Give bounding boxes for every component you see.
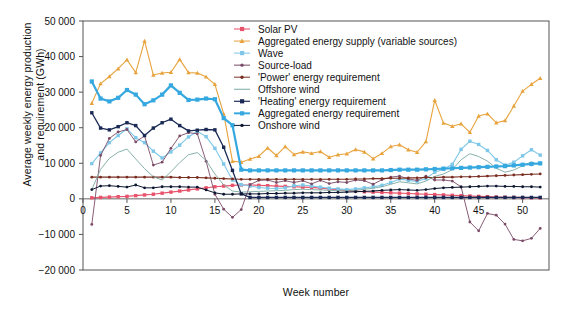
data-point [275,192,278,195]
data-point [90,196,93,199]
data-point [169,117,172,120]
data-point [495,196,498,199]
data-point [425,176,428,179]
data-point [284,196,287,199]
data-point [239,168,243,172]
data-point [328,178,331,181]
data-point [362,168,366,172]
data-point [345,168,349,172]
data-point [205,189,208,192]
data-point [283,168,287,172]
data-point [117,185,120,188]
legend-item[interactable]: Aggregated energy requirement [234,108,399,119]
data-point [249,192,252,195]
data-point [512,185,515,188]
data-point [538,76,542,80]
data-point [231,184,234,187]
data-point [460,186,463,189]
data-point [117,131,120,134]
data-point [266,178,269,181]
data-point [477,165,481,169]
data-point [539,196,542,199]
data-point [512,163,516,167]
data-point [134,124,137,127]
data-point [178,189,181,192]
data-point [424,139,428,143]
legend-swatch-marker [240,76,243,79]
data-point [486,149,489,152]
data-point [468,185,471,188]
data-point [301,168,305,172]
legend-label: Onshore wind [258,120,320,131]
data-point [539,173,542,176]
data-point [512,196,515,199]
x-tick-label: 5 [124,205,130,216]
data-point [406,148,410,152]
legend-item[interactable]: Solar PV [234,24,298,35]
data-point [539,153,542,156]
data-point [178,124,181,127]
legend-label: Offshore wind [258,84,320,95]
data-point [178,57,182,61]
data-point [275,187,278,190]
data-point [416,189,419,192]
data-point [363,196,366,199]
legend-swatch-marker [240,63,243,66]
data-point [284,192,287,195]
data-point [266,168,270,172]
data-point [310,178,313,181]
data-point [486,185,489,188]
legend-item[interactable]: Onshore wind [234,120,320,131]
data-point [187,186,190,189]
data-point [196,186,199,189]
data-point [389,177,392,180]
y-tick-label: 50 000 [44,16,75,27]
data-point [336,196,339,199]
data-point [503,196,506,199]
data-point [425,188,428,191]
legend-item[interactable]: 'Heating' energy requirement [234,96,386,107]
data-point [143,186,146,189]
data-point [521,163,525,167]
legend-item[interactable]: Wave [234,48,284,59]
legend-item[interactable]: Source-load [234,60,312,71]
data-point [292,196,295,199]
data-point [512,174,515,177]
data-point [143,141,146,144]
legend-item[interactable]: Offshore wind [234,84,320,95]
data-point [442,196,445,199]
data-point [257,196,260,199]
data-point [231,216,234,219]
data-point [415,192,418,195]
data-point [169,190,172,193]
data-point [231,169,234,172]
data-point [126,176,129,179]
data-point [134,194,137,197]
data-point [213,191,216,194]
data-point [161,176,164,179]
data-point [310,196,313,199]
data-point [459,196,462,199]
data-point [99,185,102,188]
data-point [248,168,252,172]
chart-figure: Average weekly energy production and req… [0,0,573,311]
data-point [363,178,366,181]
data-point [301,196,304,199]
data-point [125,58,129,62]
legend-item[interactable]: 'Power' energy requirement [234,72,380,83]
data-point [213,128,216,131]
data-point [126,186,129,189]
data-point [275,178,278,181]
data-point [152,149,155,152]
legend-item[interactable]: Aggregated energy supply (variable sourc… [234,36,457,47]
x-tick-label: 45 [473,205,485,216]
data-point [504,174,507,177]
data-point [345,178,348,181]
data-point [187,129,190,132]
data-point [116,96,120,100]
data-point [407,176,410,179]
data-point [441,121,445,125]
data-point [389,196,392,199]
data-point [433,167,437,171]
data-point [275,181,278,184]
